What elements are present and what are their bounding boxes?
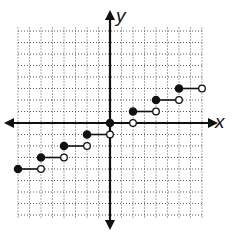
closed-endpoint	[175, 85, 182, 92]
open-endpoint	[84, 143, 91, 150]
closed-endpoint	[14, 165, 21, 172]
open-endpoint	[61, 154, 68, 161]
x-axis-arrow-left-icon	[4, 118, 14, 128]
closed-endpoint	[60, 142, 67, 149]
y-axis-arrow-down-icon	[105, 220, 115, 230]
open-endpoint	[176, 97, 183, 104]
closed-endpoint	[83, 131, 90, 138]
step-function-graph	[0, 0, 232, 232]
closed-endpoint	[129, 108, 136, 115]
open-endpoint	[153, 108, 160, 115]
open-endpoint	[199, 85, 206, 92]
closed-endpoint	[37, 154, 44, 161]
y-axis-label: y	[116, 6, 126, 25]
closed-endpoint	[152, 96, 159, 103]
closed-endpoint	[106, 119, 113, 126]
open-endpoint	[38, 166, 45, 173]
y-axis-arrow-up-icon	[105, 10, 115, 20]
open-endpoint	[107, 131, 114, 138]
x-axis-label: x	[215, 112, 225, 131]
open-endpoint	[130, 120, 137, 127]
